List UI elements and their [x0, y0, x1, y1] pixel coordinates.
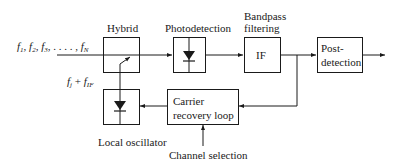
carrier-line1: Carrier: [173, 95, 204, 107]
postdetection-line2: detection: [321, 56, 361, 68]
hybrid-label: Hybrid: [107, 22, 138, 34]
if-filter-block: IF: [244, 37, 281, 73]
channel-selection-label: Channel selection: [169, 149, 248, 161]
photodetection-block: [173, 37, 206, 73]
if-label: IF: [256, 49, 266, 61]
carrier-line2: recovery loop: [173, 109, 234, 121]
input-signal-label: f1, f2, f3, . . . . , fN: [17, 40, 88, 56]
postdetection-block: Post- detection: [317, 37, 363, 73]
photodetection-label: Photodetection: [165, 22, 231, 34]
carrier-recovery-block: Carrier recovery loop: [167, 89, 239, 125]
lo-frequency-label: fj + fIF: [67, 75, 93, 91]
postdetection-line1: Post-: [321, 42, 344, 54]
bandpass-label-line1: Bandpass: [244, 10, 286, 22]
bandpass-label-line2: filtering: [244, 22, 279, 34]
hybrid-block: [103, 37, 140, 73]
local-oscillator-label: Local oscillator: [98, 136, 167, 148]
local-oscillator-block: [103, 89, 140, 125]
